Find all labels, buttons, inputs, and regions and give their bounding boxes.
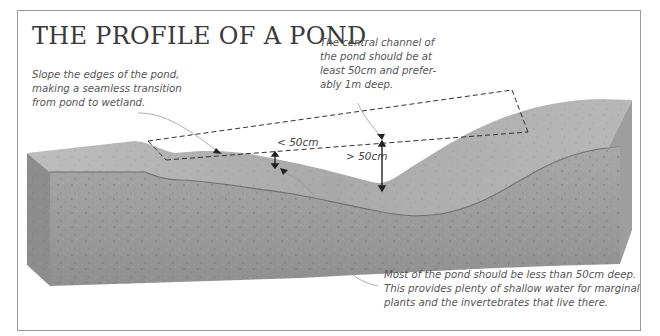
- depth-label-deep: > 50cm: [346, 150, 388, 162]
- annotation-central-channel: The central channel of the pond should b…: [320, 36, 450, 92]
- annotation-slope-edges: Slope the edges of the pond, making a se…: [32, 68, 202, 110]
- annotation-shallow-area: Most of the pond should be less than 50c…: [384, 268, 644, 310]
- depth-label-shallow: < 50cm: [277, 136, 319, 148]
- soil-block-left-face: [27, 153, 50, 286]
- diagram-title: THE PROFILE OF A POND: [32, 22, 366, 50]
